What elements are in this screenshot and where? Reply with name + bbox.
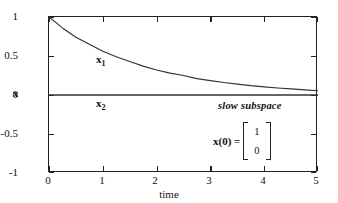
initial-condition-lhs: x(0) = bbox=[213, 135, 240, 147]
x-tick-label-2: 2 bbox=[140, 175, 170, 186]
matrix-bracket-right bbox=[266, 122, 271, 160]
matrix-column: 1 0 bbox=[248, 122, 265, 160]
annotation-slow-subspace: slow subspace bbox=[218, 100, 282, 111]
x-axis-label: time bbox=[0, 188, 338, 200]
initial-condition-matrix: 1 0 bbox=[243, 122, 270, 160]
annotation-initial-condition: x(0) = 1 0 bbox=[213, 122, 271, 160]
x-tick-label-4: 4 bbox=[248, 175, 278, 186]
x-tick-label-3: 3 bbox=[194, 175, 224, 186]
curve-label-x1-sub: 1 bbox=[102, 59, 106, 68]
curve-label-x1: x1 bbox=[96, 53, 106, 68]
curve-x1 bbox=[49, 17, 318, 91]
x-tick-label-0: 0 bbox=[33, 175, 63, 186]
x-tick-label-5: 5 bbox=[301, 175, 331, 186]
matrix-cell-1: 0 bbox=[254, 145, 259, 157]
x-tick-label-1: 1 bbox=[87, 175, 117, 186]
y-tick-label-5: -1 bbox=[0, 167, 18, 178]
matlab-figure: x 1 0.5 0 -0.5 -1 0 1 2 3 4 5 time bbox=[0, 0, 338, 203]
curve-label-x2: x2 bbox=[96, 97, 106, 112]
plot-area bbox=[48, 16, 317, 172]
y-tick-label-3: 0 bbox=[0, 89, 18, 100]
y-tick-label-4: -0.5 bbox=[0, 128, 18, 139]
data-curves bbox=[49, 17, 318, 173]
y-tick-label-2: 0.5 bbox=[0, 50, 18, 61]
curve-label-x2-sub: 2 bbox=[102, 103, 106, 112]
y-tick-label-1: 1 bbox=[0, 11, 18, 22]
matrix-cell-0: 1 bbox=[254, 126, 259, 138]
